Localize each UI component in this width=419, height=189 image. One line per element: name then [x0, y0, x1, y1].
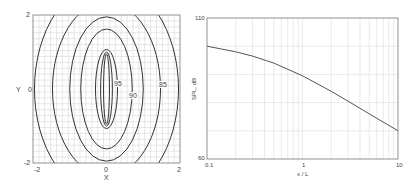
contour-grid [33, 15, 180, 163]
x-tick-max: 10 [396, 162, 403, 168]
y-tick-min: 60 [198, 155, 205, 161]
x-tick-mid: 0 [104, 166, 108, 173]
contour-line [52, 2, 160, 176]
x-axis-label: X [104, 174, 109, 181]
contour-line [104, 54, 110, 124]
contour-line [81, 29, 132, 149]
x-tick-min: 0.1 [205, 162, 213, 168]
y-tick-min: -2 [24, 159, 30, 166]
x-tick-min: -2 [34, 166, 40, 173]
contour-label-85: 85 [159, 81, 167, 88]
y-axis-label: SPL, dB [191, 78, 197, 100]
contour-line [101, 52, 113, 126]
contour-line [95, 49, 117, 128]
contour-label-90: 90 [129, 92, 137, 99]
contour-lines [34, 0, 178, 189]
y-tick-max: 2 [26, 11, 30, 18]
contour-label-95: 95 [114, 80, 122, 87]
y-tick-mid: 0 [28, 86, 32, 93]
x-axis-label: x / L [297, 171, 308, 177]
x-tick-mid: 1 [302, 162, 305, 168]
x-tick-max: 2 [177, 166, 181, 173]
line-grid [207, 18, 398, 159]
y-tick-max: 110 [195, 15, 205, 21]
y-axis-label: Y [16, 86, 21, 93]
contour-plot-frame [33, 15, 180, 163]
contour-plot-canvas [0, 0, 419, 189]
